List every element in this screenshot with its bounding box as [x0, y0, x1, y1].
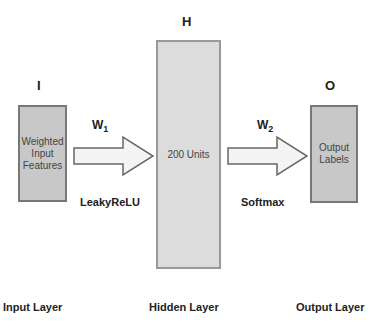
- activation-label-2: Softmax: [241, 196, 284, 208]
- arrow-input-to-hidden: [73, 136, 155, 176]
- output-label-line: Output: [319, 142, 349, 154]
- hidden-layer-box: 200 Units: [156, 40, 221, 269]
- arrow-hidden-to-output: [227, 136, 309, 176]
- weight-label-2: W2: [257, 118, 273, 134]
- input-layer-caption: Input Layer: [3, 301, 62, 313]
- output-layer-caption: Output Layer: [296, 301, 364, 313]
- hidden-label: 200 Units: [167, 149, 209, 161]
- hidden-layer-caption: Hidden Layer: [149, 301, 219, 313]
- input-letter: I: [37, 78, 41, 93]
- output-layer-box: Output Labels: [310, 105, 358, 203]
- activation-label-1: LeakyReLU: [80, 196, 140, 208]
- weight-label-1: W1: [92, 118, 108, 134]
- input-label-line: Features: [21, 160, 63, 172]
- input-label-line: Weighted: [21, 136, 63, 148]
- input-layer-box: Weighted Input Features: [18, 105, 67, 202]
- output-letter: O: [325, 78, 335, 93]
- hidden-letter: H: [182, 14, 191, 29]
- input-label-line: Input: [21, 148, 63, 160]
- output-label-line: Labels: [319, 154, 349, 166]
